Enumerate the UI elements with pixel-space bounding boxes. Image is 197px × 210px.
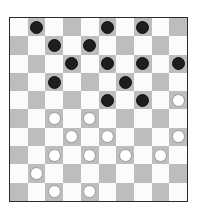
board-square-3-5 <box>99 73 117 91</box>
board-square-5-7 <box>134 109 152 127</box>
board-square-9-8[interactable] <box>152 183 170 201</box>
board-square-7-2[interactable] <box>45 146 63 164</box>
board-square-2-0 <box>10 55 28 73</box>
board-square-1-1 <box>28 36 46 54</box>
board-square-9-2[interactable] <box>45 183 63 201</box>
board-square-5-4[interactable] <box>81 109 99 127</box>
black-piece[interactable] <box>101 94 114 107</box>
board-square-9-4[interactable] <box>81 183 99 201</box>
board-square-4-9[interactable] <box>169 91 187 109</box>
board-square-1-6[interactable] <box>116 36 134 54</box>
board-square-9-7 <box>134 183 152 201</box>
board-square-1-0[interactable] <box>10 36 28 54</box>
board-square-0-7[interactable] <box>134 18 152 36</box>
board-square-8-1[interactable] <box>28 164 46 182</box>
black-piece[interactable] <box>48 76 61 89</box>
board-square-3-6[interactable] <box>116 73 134 91</box>
board-square-3-8[interactable] <box>152 73 170 91</box>
black-piece[interactable] <box>65 57 78 70</box>
board-square-9-3 <box>63 183 81 201</box>
board-square-4-7[interactable] <box>134 91 152 109</box>
board-square-2-3[interactable] <box>63 55 81 73</box>
board-square-4-8 <box>152 91 170 109</box>
board-square-2-7[interactable] <box>134 55 152 73</box>
board-square-8-5[interactable] <box>99 164 117 182</box>
board-square-6-2 <box>45 128 63 146</box>
board-square-5-0[interactable] <box>10 109 28 127</box>
board-square-5-6[interactable] <box>116 109 134 127</box>
black-piece[interactable] <box>48 39 61 52</box>
board-square-0-0 <box>10 18 28 36</box>
board-square-0-6 <box>116 18 134 36</box>
black-piece[interactable] <box>136 94 149 107</box>
board-square-6-1[interactable] <box>28 128 46 146</box>
board-square-1-2[interactable] <box>45 36 63 54</box>
white-piece[interactable] <box>83 149 96 162</box>
white-piece[interactable] <box>172 130 185 143</box>
board-square-6-5[interactable] <box>99 128 117 146</box>
board-square-7-4[interactable] <box>81 146 99 164</box>
board-square-8-9[interactable] <box>169 164 187 182</box>
board-square-7-5 <box>99 146 117 164</box>
board-square-5-1 <box>28 109 46 127</box>
board-square-7-8[interactable] <box>152 146 170 164</box>
board-square-2-1[interactable] <box>28 55 46 73</box>
board-square-2-9[interactable] <box>169 55 187 73</box>
white-piece[interactable] <box>101 130 114 143</box>
black-piece[interactable] <box>101 57 114 70</box>
white-piece[interactable] <box>83 112 96 125</box>
board-square-0-5[interactable] <box>99 18 117 36</box>
board-square-1-4[interactable] <box>81 36 99 54</box>
board-square-8-7[interactable] <box>134 164 152 182</box>
board-square-1-7 <box>134 36 152 54</box>
black-piece[interactable] <box>101 21 114 34</box>
white-piece[interactable] <box>65 130 78 143</box>
white-piece[interactable] <box>48 112 61 125</box>
black-piece[interactable] <box>83 39 96 52</box>
black-piece[interactable] <box>172 57 185 70</box>
black-piece[interactable] <box>136 57 149 70</box>
board-square-5-8[interactable] <box>152 109 170 127</box>
board-square-9-0[interactable] <box>10 183 28 201</box>
board-square-8-3[interactable] <box>63 164 81 182</box>
white-piece[interactable] <box>30 167 43 180</box>
board-square-3-9 <box>169 73 187 91</box>
black-piece[interactable] <box>30 21 43 34</box>
board-square-4-3[interactable] <box>63 91 81 109</box>
board-square-4-5[interactable] <box>99 91 117 109</box>
board-square-1-8[interactable] <box>152 36 170 54</box>
board-square-3-4[interactable] <box>81 73 99 91</box>
board-square-0-3[interactable] <box>63 18 81 36</box>
board-square-0-1[interactable] <box>28 18 46 36</box>
board-square-9-5 <box>99 183 117 201</box>
board-square-1-5 <box>99 36 117 54</box>
board-square-4-4 <box>81 91 99 109</box>
board-square-9-6[interactable] <box>116 183 134 201</box>
white-piece[interactable] <box>154 149 167 162</box>
board-square-0-2 <box>45 18 63 36</box>
board-square-4-1[interactable] <box>28 91 46 109</box>
board-square-7-6[interactable] <box>116 146 134 164</box>
board-square-9-9 <box>169 183 187 201</box>
board-square-7-0[interactable] <box>10 146 28 164</box>
board-square-5-2[interactable] <box>45 109 63 127</box>
board-square-6-3[interactable] <box>63 128 81 146</box>
white-piece[interactable] <box>48 149 61 162</box>
board-square-0-8 <box>152 18 170 36</box>
board-square-6-9[interactable] <box>169 128 187 146</box>
black-piece[interactable] <box>136 21 149 34</box>
black-piece[interactable] <box>119 76 132 89</box>
board-square-0-9[interactable] <box>169 18 187 36</box>
white-piece[interactable] <box>48 185 61 198</box>
board-square-7-7 <box>134 146 152 164</box>
board-square-6-4 <box>81 128 99 146</box>
board-square-3-0[interactable] <box>10 73 28 91</box>
board-square-6-7[interactable] <box>134 128 152 146</box>
white-piece[interactable] <box>83 185 96 198</box>
board-square-2-5[interactable] <box>99 55 117 73</box>
board-square-8-6 <box>116 164 134 182</box>
white-piece[interactable] <box>172 94 185 107</box>
board-square-3-2[interactable] <box>45 73 63 91</box>
white-piece[interactable] <box>119 149 132 162</box>
board-square-5-9 <box>169 109 187 127</box>
